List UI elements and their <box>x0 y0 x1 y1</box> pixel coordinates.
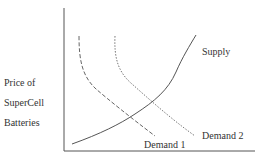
supply-label: Supply <box>202 46 230 57</box>
supply-curve <box>72 35 196 144</box>
demand-1-curve <box>79 36 155 136</box>
y-label-line-3: Batteries <box>4 113 44 133</box>
demand-2-curve <box>115 36 195 136</box>
y-label-line-1: Price of <box>4 73 44 93</box>
demand-1-label: Demand 1 <box>144 139 185 150</box>
y-axis-label: Price of SuperCell Batteries <box>4 73 44 133</box>
y-label-line-2: SuperCell <box>4 93 44 113</box>
demand-2-label: Demand 2 <box>202 130 243 141</box>
